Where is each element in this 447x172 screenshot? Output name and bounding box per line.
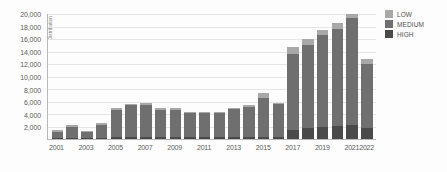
bar-segment-high[interactable]: [361, 128, 372, 139]
bar-segment-high[interactable]: [287, 130, 298, 139]
bar-segment-high[interactable]: [66, 138, 77, 139]
stacked-bar[interactable]: [81, 131, 92, 139]
bar-segment-high[interactable]: [52, 138, 63, 139]
stacked-bar[interactable]: [199, 112, 210, 139]
stacked-bar[interactable]: [214, 112, 225, 140]
stacked-bar[interactable]: [52, 130, 63, 139]
bar-segment-high[interactable]: [214, 137, 225, 139]
y-axis-tick: 8,000: [24, 86, 41, 93]
stacked-bar[interactable]: [317, 30, 328, 139]
bar-segment-medium[interactable]: [273, 104, 284, 137]
stacked-bar[interactable]: [258, 93, 269, 139]
stacked-bar[interactable]: [66, 125, 77, 139]
stacked-bar[interactable]: [125, 104, 136, 139]
bar-segment-medium[interactable]: [243, 107, 254, 138]
bar-segment-medium[interactable]: [228, 109, 239, 137]
stacked-bar[interactable]: [332, 23, 343, 139]
bar-segment-high[interactable]: [243, 137, 254, 139]
bar-segment-medium[interactable]: [332, 29, 343, 126]
bar-column[interactable]: [242, 14, 257, 139]
bar-column[interactable]: [124, 14, 139, 139]
bar-segment-high[interactable]: [81, 138, 92, 139]
bar-column[interactable]: [183, 14, 198, 139]
bar-segment-high[interactable]: [228, 137, 239, 139]
stacked-bar[interactable]: [361, 59, 372, 139]
bar-segment-high[interactable]: [258, 137, 269, 139]
stacked-bar[interactable]: [96, 123, 107, 139]
stacked-bar[interactable]: [287, 47, 298, 139]
bar-segment-medium[interactable]: [214, 113, 225, 138]
bar-column[interactable]: [212, 14, 227, 139]
bar-segment-medium[interactable]: [111, 110, 122, 138]
bar-column[interactable]: [197, 14, 212, 139]
bar-segment-high[interactable]: [170, 137, 181, 139]
legend-item[interactable]: HIGH: [385, 30, 424, 38]
bar-segment-medium[interactable]: [140, 105, 151, 137]
bar-column[interactable]: [65, 14, 80, 139]
legend-swatch-icon: [385, 10, 393, 18]
bar-segment-medium[interactable]: [361, 64, 372, 128]
bar-column[interactable]: [79, 14, 94, 139]
legend-item[interactable]: LOW: [385, 10, 424, 18]
stacked-bar[interactable]: [184, 112, 195, 140]
bar-column[interactable]: [227, 14, 242, 139]
legend-label: HIGH: [397, 31, 414, 38]
bar-segment-high[interactable]: [199, 137, 210, 139]
bar-segment-medium[interactable]: [96, 125, 107, 138]
bar-column[interactable]: [286, 14, 301, 139]
stacked-bar[interactable]: [243, 105, 254, 139]
bar-segment-medium[interactable]: [302, 45, 313, 129]
bar-segment-medium[interactable]: [346, 18, 357, 125]
bar-segment-medium[interactable]: [52, 132, 63, 139]
bar-column[interactable]: [256, 14, 271, 139]
bar-segment-medium[interactable]: [287, 54, 298, 130]
bar-segment-high[interactable]: [96, 138, 107, 139]
bar-segment-high[interactable]: [111, 137, 122, 139]
bar-segment-high[interactable]: [346, 125, 357, 139]
x-axis-tick: 2013: [226, 141, 241, 159]
stacked-bar[interactable]: [111, 108, 122, 139]
stacked-bar[interactable]: [228, 108, 239, 139]
bar-column[interactable]: [271, 14, 286, 139]
bar-segment-high[interactable]: [302, 128, 313, 139]
stacked-bar-chart: Distribution 02,0004,0006,0008,00010,000…: [0, 0, 447, 172]
bar-column[interactable]: [153, 14, 168, 139]
x-axis-tick: 2003: [79, 141, 94, 159]
legend-item[interactable]: MEDIUM: [385, 20, 424, 28]
bar-segment-medium[interactable]: [155, 110, 166, 138]
bar-segment-high[interactable]: [140, 137, 151, 139]
y-axis-tick: 4,000: [24, 111, 41, 118]
stacked-bar[interactable]: [140, 103, 151, 139]
bar-column[interactable]: [94, 14, 109, 139]
bar-segment-high[interactable]: [155, 137, 166, 139]
bar-segment-high[interactable]: [125, 137, 136, 139]
bar-column[interactable]: [345, 14, 360, 139]
stacked-bar[interactable]: [155, 108, 166, 139]
bar-column[interactable]: [168, 14, 183, 139]
bar-column[interactable]: [359, 14, 374, 139]
bar-segment-low[interactable]: [287, 47, 298, 54]
bar-column[interactable]: [138, 14, 153, 139]
bar-segment-medium[interactable]: [184, 113, 195, 138]
bar-segment-medium[interactable]: [125, 105, 136, 137]
bar-segment-medium[interactable]: [258, 98, 269, 136]
stacked-bar[interactable]: [346, 14, 357, 139]
bar-segment-medium[interactable]: [66, 127, 77, 138]
stacked-bar[interactable]: [302, 39, 313, 139]
bar-segment-medium[interactable]: [317, 35, 328, 127]
bar-segment-high[interactable]: [332, 126, 343, 139]
bar-segment-high[interactable]: [184, 137, 195, 139]
bar-segment-medium[interactable]: [199, 113, 210, 137]
bar-segment-medium[interactable]: [170, 110, 181, 138]
x-axis-tick-labels: 2001.2003.2005.2007.2009.2011.2013.2015.…: [47, 141, 376, 159]
bar-column[interactable]: [109, 14, 124, 139]
bar-column[interactable]: [315, 14, 330, 139]
bar-column[interactable]: [330, 14, 345, 139]
bar-segment-high[interactable]: [317, 127, 328, 139]
stacked-bar[interactable]: [273, 103, 284, 139]
bar-segment-high[interactable]: [273, 137, 284, 139]
bar-column[interactable]: [300, 14, 315, 139]
x-axis-tick: 2011: [197, 141, 212, 159]
bar-column[interactable]: [50, 14, 65, 139]
stacked-bar[interactable]: [170, 108, 181, 139]
